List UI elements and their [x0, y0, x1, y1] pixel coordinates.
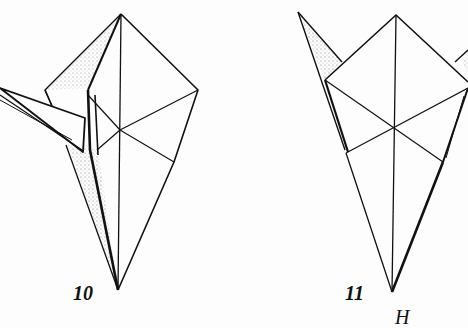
step-number-label: 11 — [345, 282, 364, 305]
step-10-figure — [0, 14, 198, 290]
partial-caption-label: H — [395, 306, 409, 328]
step-11-figure — [298, 12, 468, 292]
step-number-label: 10 — [73, 282, 93, 305]
